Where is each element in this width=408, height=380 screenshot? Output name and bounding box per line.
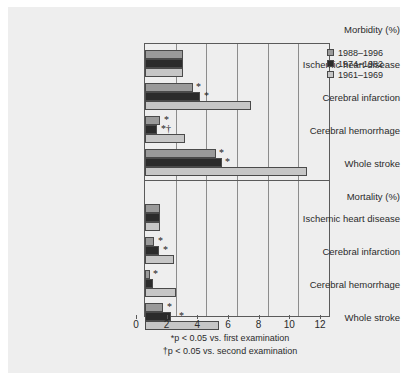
section-divider <box>145 180 329 181</box>
footnote-first-examination: *p < 0.05 vs. first examination <box>100 332 360 345</box>
category-label-morbidity-wholestroke: Whole stroke <box>276 158 400 169</box>
sig-mortality-hemorrhage-1988: * <box>153 269 158 278</box>
legend-label-1961-1969: 1961–1969 <box>338 70 383 80</box>
bar-morbidity-hemorrhage-1961 <box>145 134 185 143</box>
sig-morbidity-infarction-1988: * <box>196 82 201 91</box>
xtick-label-0: 0 <box>124 319 148 330</box>
bar-morbidity-infarction-1988 <box>145 83 193 92</box>
xtick-label-4: 4 <box>185 319 209 330</box>
bar-mortality-ihd-1961 <box>145 222 160 231</box>
figure-container: * * * *† * * * * <box>0 0 408 380</box>
legend-item-1974-1982: 1974–1982 <box>327 58 383 69</box>
category-label-morbidity-infarction: Cerebral infarction <box>276 92 400 103</box>
bar-morbidity-infarction-1961 <box>145 101 251 110</box>
category-label-morbidity-hemorrhage: Cerebral hemorrhage <box>276 125 400 136</box>
footnotes: *p < 0.05 vs. first examination †p < 0.0… <box>100 332 360 358</box>
sig-morbidity-wholestroke-1988: * <box>219 148 224 157</box>
bar-morbidity-wholestroke-1988 <box>145 149 216 158</box>
bar-mortality-ihd-1988 <box>145 204 160 213</box>
bar-morbidity-ihd-1988 <box>145 50 183 59</box>
category-label-mortality-ihd: Ischemic heart disease <box>276 213 400 224</box>
bar-mortality-infarction-1961 <box>145 255 174 264</box>
legend-item-1988-1996: 1988–1996 <box>327 47 383 58</box>
bar-mortality-hemorrhage-1988 <box>145 270 150 279</box>
sig-mortality-wholestroke-1974: * <box>179 311 184 320</box>
legend-swatch-1974-1982 <box>327 60 334 67</box>
plot-area: * * * *† * * * * <box>144 43 330 317</box>
bar-morbidity-hemorrhage-1988 <box>145 116 160 125</box>
legend-label-1974-1982: 1974–1982 <box>338 59 383 69</box>
section-label-morbidity: Morbidity (%) <box>276 24 400 35</box>
xtick-label-6: 6 <box>216 319 240 330</box>
bar-mortality-hemorrhage-1961 <box>145 288 176 297</box>
bar-morbidity-wholestroke-1974 <box>145 158 222 167</box>
category-label-mortality-hemorrhage: Cerebral hemorrhage <box>276 279 400 290</box>
legend-label-1988-1996: 1988–1996 <box>338 48 383 58</box>
legend-swatch-1961-1969 <box>327 71 334 78</box>
bar-morbidity-hemorrhage-1974 <box>145 125 157 134</box>
sig-mortality-infarction-1974: * <box>163 245 168 254</box>
bar-mortality-infarction-1988 <box>145 237 154 246</box>
xtick-label-8: 8 <box>247 319 271 330</box>
legend-swatch-1988-1996 <box>327 49 334 56</box>
legend: 1988–1996 1974–1982 1961–1969 <box>327 47 383 80</box>
sig-morbidity-infarction-1974: * <box>204 91 209 100</box>
bar-mortality-ihd-1974 <box>145 213 160 222</box>
bar-morbidity-ihd-1974 <box>145 59 183 68</box>
bar-mortality-hemorrhage-1974 <box>145 279 153 288</box>
bar-morbidity-infarction-1974 <box>145 92 200 101</box>
sig-morbidity-wholestroke-1974: * <box>225 157 230 166</box>
footnote-second-examination: †p < 0.05 vs. second examination <box>100 345 360 358</box>
section-label-mortality: Mortality (%) <box>276 191 400 202</box>
sig-morbidity-hemorrhage-1974: *† <box>161 124 171 133</box>
bar-mortality-wholestroke-1988 <box>145 303 163 312</box>
category-label-mortality-infarction: Cerebral infarction <box>276 246 400 257</box>
sig-mortality-wholestroke-1988: * <box>167 302 172 311</box>
xtick-label-2: 2 <box>155 319 179 330</box>
bar-mortality-infarction-1974 <box>145 246 159 255</box>
category-label-mortality-wholestroke: Whole stroke <box>276 312 400 323</box>
legend-item-1961-1969: 1961–1969 <box>327 69 383 80</box>
bar-morbidity-ihd-1961 <box>145 68 183 77</box>
